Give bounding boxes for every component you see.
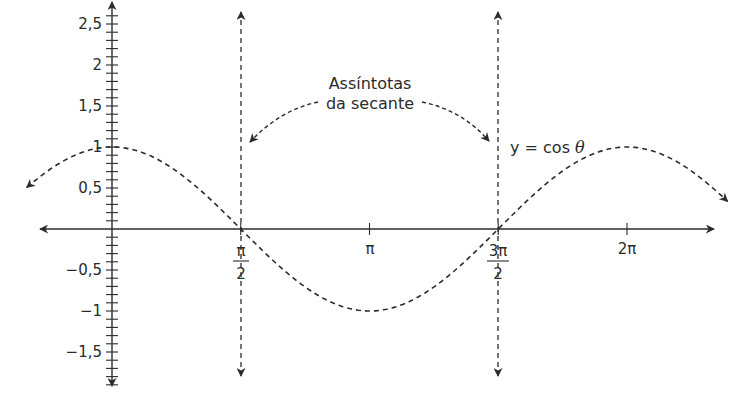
asymptote-note-line1: Assíntotas [329, 74, 412, 93]
x-axis [40, 223, 714, 235]
y-tick-label: −1,5 [66, 343, 102, 361]
x-tick-label-pi: π [365, 240, 374, 258]
y-tick-label: 2,5 [78, 15, 102, 33]
curve-label-theta: θ [575, 138, 585, 157]
x-tick-label-pi-half: π 2 [233, 242, 249, 283]
annotation-arrow-left [250, 102, 318, 142]
curve-label: y = cos θ [510, 138, 585, 157]
y-tick-label: 1,5 [78, 97, 102, 115]
cosine-secant-chart: 2,521,510,5−0,5−1−1,5 Assíntotas da seca… [0, 0, 734, 411]
x-tick-label-3pi-half: 3π 2 [487, 242, 509, 283]
y-tick-label: −1 [80, 302, 102, 320]
svg-text:2: 2 [236, 265, 246, 283]
y-tick-label: 2 [92, 56, 102, 74]
y-tick-label: 0,5 [78, 179, 102, 197]
x-tick-label-2pi: 2π [618, 240, 637, 258]
svg-text:π: π [236, 242, 245, 260]
y-tick-label: −0,5 [66, 261, 102, 279]
asymptote-note-line2: da secante [326, 94, 414, 113]
y-axis: 2,521,510,5−0,5−1−1,5 [66, 2, 118, 386]
svg-text:2: 2 [493, 265, 503, 283]
svg-text:3π: 3π [489, 242, 508, 260]
curve-label-prefix: y = cos [510, 138, 575, 157]
annotation-arrow-right [422, 102, 489, 141]
y-axis-labels: 2,521,510,5−0,5−1−1,5 [66, 15, 102, 361]
